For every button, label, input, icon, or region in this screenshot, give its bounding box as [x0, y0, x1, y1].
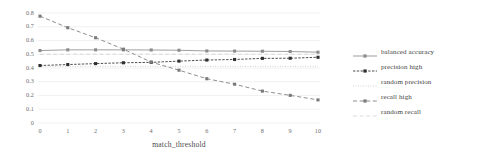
- data-point: [177, 69, 180, 72]
- data-point: [122, 61, 125, 64]
- y-tick-label: 0.1: [12, 106, 34, 112]
- y-tick-label: 0.7: [12, 23, 34, 29]
- data-point: [261, 90, 264, 93]
- gridlines: [38, 13, 320, 123]
- data-point: [316, 98, 319, 101]
- series-lines: [40, 16, 318, 100]
- legend-key-icon: [352, 107, 378, 117]
- data-point: [289, 57, 292, 60]
- x-tick-label: 3: [116, 128, 130, 134]
- legend-label: recall high: [381, 93, 412, 101]
- data-point: [205, 58, 208, 61]
- data-point: [289, 94, 292, 97]
- legend-key-icon: [352, 62, 378, 72]
- data-point: [177, 60, 180, 63]
- data-point: [261, 57, 264, 60]
- data-point: [233, 83, 236, 86]
- y-tick-label: 0.3: [12, 78, 34, 84]
- x-tick-label: 7: [228, 128, 242, 134]
- legend-item-random-precision[interactable]: random precision: [352, 74, 478, 89]
- legend-label: random precision: [381, 78, 431, 86]
- legend-label: precision high: [381, 63, 422, 71]
- data-point: [205, 49, 208, 52]
- legend-item-recall-high[interactable]: recall high: [352, 90, 478, 105]
- x-axis-title: match_threshold: [30, 140, 328, 149]
- data-point: [316, 51, 319, 54]
- data-point: [233, 58, 236, 61]
- legend-label: random recall: [381, 108, 421, 116]
- legend-item-balanced-accuracy[interactable]: balanced accuracy: [352, 44, 478, 59]
- data-point: [205, 77, 208, 80]
- data-point: [38, 15, 41, 18]
- data-point: [233, 50, 236, 53]
- x-tick-label: 10: [311, 128, 325, 134]
- x-tick-label: 6: [200, 128, 214, 134]
- data-point: [122, 48, 125, 51]
- chart-legend: balanced accuracyprecision highrandom pr…: [352, 44, 478, 120]
- y-tick-label: 0.8: [12, 10, 34, 16]
- data-point: [150, 61, 153, 64]
- data-point: [261, 50, 264, 53]
- x-tick-label: 5: [172, 128, 186, 134]
- y-tick-label: 0: [12, 120, 34, 126]
- y-tick-label: 0.6: [12, 37, 34, 43]
- y-tick-label: 0.4: [12, 65, 34, 71]
- line-chart: 0.80.70.60.50.40.30.20.10 012345678910 m…: [0, 0, 480, 157]
- data-point: [66, 48, 69, 51]
- data-point: [94, 48, 97, 51]
- y-tick-label: 0.2: [12, 92, 34, 98]
- x-tick-label: 4: [144, 128, 158, 134]
- data-point: [66, 63, 69, 66]
- data-point: [94, 36, 97, 39]
- legend-label: balanced accuracy: [381, 48, 434, 56]
- x-tick-label: 9: [283, 128, 297, 134]
- data-point: [289, 50, 292, 53]
- y-tick-label: 0.5: [12, 51, 34, 57]
- legend-key-icon: [352, 92, 378, 102]
- legend-item-precision-high[interactable]: precision high: [352, 59, 478, 74]
- x-tick-label: 2: [89, 128, 103, 134]
- legend-item-random-recall[interactable]: random recall: [352, 105, 478, 120]
- data-point: [177, 49, 180, 52]
- data-point: [38, 64, 41, 67]
- x-tick-label: 0: [33, 128, 47, 134]
- legend-key-icon: [352, 77, 378, 87]
- data-point: [66, 26, 69, 29]
- x-tick-label: 1: [61, 128, 75, 134]
- data-point: [316, 56, 319, 59]
- data-point: [150, 48, 153, 51]
- data-point: [38, 49, 41, 52]
- data-point: [94, 62, 97, 65]
- x-tick-label: 8: [255, 128, 269, 134]
- legend-key-icon: [352, 47, 378, 57]
